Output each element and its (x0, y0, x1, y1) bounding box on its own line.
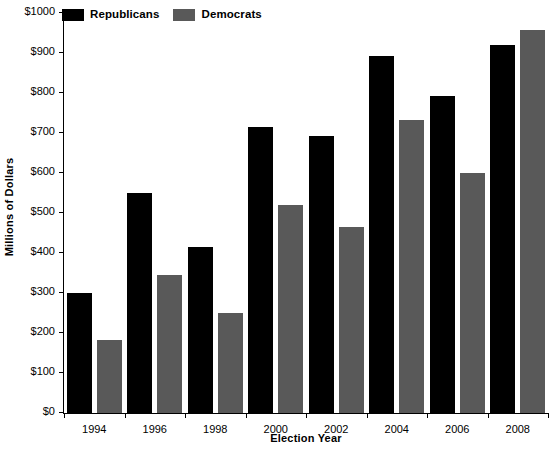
x-tick-mark (306, 413, 307, 418)
bar-2004-republicans (369, 56, 394, 413)
y-tick-label: $400 (31, 245, 55, 257)
bar-1998-republicans (188, 247, 213, 413)
y-tick-label: $900 (31, 45, 55, 57)
bar-1994-republicans (67, 293, 92, 413)
y-tick-mark (59, 212, 64, 213)
x-tick-mark (548, 413, 549, 418)
x-tick-mark (125, 413, 126, 418)
bar-chart: RepublicansDemocrats Millions of Dollars… (0, 0, 552, 456)
y-tick-label: $600 (31, 165, 55, 177)
y-tick-label: $0 (43, 405, 55, 417)
bar-2000-republicans (248, 127, 273, 413)
x-tick-mark (427, 413, 428, 418)
legend-label: Democrats (201, 9, 261, 21)
y-tick-label: $300 (31, 285, 55, 297)
bar-1998-democrats (218, 313, 243, 413)
y-axis-title: Millions of Dollars (0, 0, 18, 413)
bar-2002-democrats (339, 227, 364, 413)
x-tick-mark (246, 413, 247, 418)
y-axis-line (63, 13, 64, 413)
legend-label: Republicans (90, 9, 159, 21)
bar-2008-democrats (520, 30, 545, 413)
bar-2006-republicans (430, 96, 455, 413)
bar-2006-democrats (460, 173, 485, 413)
x-axis-title: Election Year (64, 432, 548, 444)
y-tick-label: $700 (31, 125, 55, 137)
legend-entry-democrats: Democrats (173, 9, 261, 21)
y-tick-mark (59, 52, 64, 53)
y-tick-label: $500 (31, 205, 55, 217)
bar-1996-democrats (157, 275, 182, 413)
y-tick-label: $800 (31, 85, 55, 97)
y-tick-mark (59, 332, 64, 333)
y-tick-mark (59, 92, 64, 93)
y-tick-mark (59, 292, 64, 293)
legend-swatch-icon (62, 9, 84, 21)
plot-area: $0$100$200$300$400$500$600$700$800$900$1… (64, 13, 548, 413)
x-tick-mark (367, 413, 368, 418)
y-tick-label: $200 (31, 325, 55, 337)
y-tick-mark (59, 172, 64, 173)
bar-2002-republicans (309, 136, 334, 413)
x-tick-mark (185, 413, 186, 418)
bar-1994-democrats (97, 340, 122, 413)
chart-legend: RepublicansDemocrats (62, 9, 262, 21)
bar-2000-democrats (278, 205, 303, 413)
legend-swatch-icon (173, 9, 195, 21)
legend-entry-republicans: Republicans (62, 9, 159, 21)
y-tick-mark (59, 372, 64, 373)
y-tick-mark (59, 132, 64, 133)
bar-2004-democrats (399, 120, 424, 413)
x-tick-mark (64, 413, 65, 418)
bar-2008-republicans (490, 45, 515, 413)
y-tick-label: $100 (31, 365, 55, 377)
y-axis-title-text: Millions of Dollars (3, 157, 15, 256)
y-tick-label: $1000 (24, 5, 55, 17)
y-tick-mark (59, 252, 64, 253)
bar-1996-republicans (127, 193, 152, 413)
x-tick-mark (488, 413, 489, 418)
